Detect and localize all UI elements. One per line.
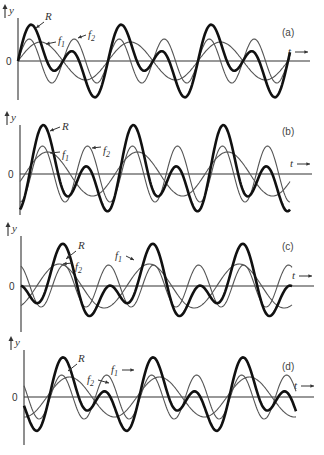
resultant-curve	[21, 244, 292, 316]
t-arrow-icon-head	[308, 274, 312, 277]
panel-c: y0t(c)Rf1f2	[6, 222, 315, 332]
panel-label: (c)	[282, 241, 294, 252]
f1-label: f1	[115, 249, 122, 264]
y-arrow-icon	[9, 336, 14, 341]
t-axis-label: t	[294, 379, 298, 391]
y-axis-label: y	[8, 4, 14, 16]
y-axis-label: y	[14, 336, 20, 348]
resultant-curve	[24, 357, 296, 430]
y-arrow-icon	[5, 111, 10, 116]
R-label: R	[61, 120, 69, 132]
panel-label: (b)	[282, 126, 294, 137]
y-arrow-icon	[3, 4, 8, 9]
y-arrow-icon	[6, 222, 11, 227]
zero-label: 0	[6, 56, 12, 67]
y-axis-label: y	[10, 111, 16, 123]
y-axis-label: y	[11, 222, 17, 234]
zero-label: 0	[12, 392, 18, 403]
f1-label: f1	[62, 148, 69, 163]
f2-label: f2	[103, 144, 110, 159]
panel-a: y0t(a)Rf1f2	[3, 4, 311, 100]
resultant-curve	[20, 125, 290, 211]
t-axis-label: t	[292, 269, 296, 281]
superposition-figure: y0t(a)Rf1f2y0t(b)Rf1f2y0t(c)Rf1f2y0t(d)R…	[0, 0, 324, 455]
f1-label: f1	[111, 363, 118, 378]
panel-d: y0t(d)Rf1f2	[9, 336, 315, 445]
R-label: R	[77, 239, 85, 251]
t-arrow-icon-head	[306, 162, 310, 165]
panel-label: (d)	[282, 361, 294, 372]
R-label: R	[77, 352, 85, 364]
f1-pointer-head	[130, 368, 134, 371]
t-axis-label: t	[290, 157, 294, 169]
f1-label: f1	[58, 34, 65, 49]
R-label: R	[44, 10, 52, 22]
t-arrow-icon-head	[304, 50, 308, 53]
zero-label: 0	[8, 169, 14, 180]
panel-label: (a)	[282, 27, 294, 38]
f2-label: f2	[87, 373, 94, 388]
t-arrow-icon-head	[310, 384, 314, 387]
f2-label: f2	[88, 28, 95, 43]
zero-label: 0	[9, 281, 15, 292]
panel-b: y0t(b)Rf1f2	[5, 111, 313, 215]
f2-label: f2	[75, 260, 82, 275]
